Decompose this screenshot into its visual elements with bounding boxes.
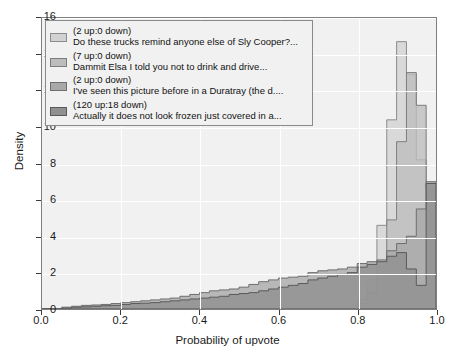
x-tick-label: 0.2 [100,315,140,326]
gridline-horizontal [42,274,436,275]
legend-swatch [50,58,67,67]
x-tick-label: 1.0 [417,315,455,326]
legend-item-1[interactable]: (7 up:0 down)Dammit Elsa I told you not … [50,50,307,73]
legend-vote-count: (2 up:0 down) [73,25,298,36]
legend: (2 up:0 down)Do these trucks remind anyo… [45,20,313,126]
legend-item-3[interactable]: (120 up:18 down)Actually it does not loo… [50,99,307,122]
legend-item-0[interactable]: (2 up:0 down)Do these trucks remind anyo… [50,25,307,48]
x-axis-label: Probability of upvote [0,334,455,346]
x-tick-label: 0.8 [338,315,378,326]
x-tick-label: 0.4 [179,315,219,326]
gridline-horizontal [42,128,436,129]
gridline-horizontal [42,18,436,19]
gridline-horizontal [42,238,436,239]
y-tick-label: 8 [22,158,56,169]
legend-series-label: Do these trucks remind anyone else of Sl… [73,36,298,48]
legend-swatch [50,33,67,42]
y-axis-label: Density [13,91,25,211]
y-tick-label: 2 [22,267,56,278]
x-tick-label: 0.6 [259,315,299,326]
legend-item-2[interactable]: (2 up:0 down)I've seen this picture befo… [50,74,307,97]
legend-vote-count: (120 up:18 down) [73,99,282,110]
legend-series-label: Actually it does not look frozen just co… [73,110,282,122]
x-tick-label: 0.0 [21,315,61,326]
density-histogram-figure: 02468101214160.00.20.40.60.81.0 (2 up:0 … [0,0,455,354]
legend-series-label: Dammit Elsa I told you not to drink and … [73,61,267,73]
gridline-horizontal [42,165,436,166]
legend-swatch [50,82,67,91]
gridline-horizontal [42,201,436,202]
legend-swatch [50,107,67,116]
legend-series-label: I've seen this picture before in a Durat… [73,85,283,97]
y-tick-label: 4 [22,231,56,242]
gridline-vertical [359,18,360,309]
legend-vote-count: (7 up:0 down) [73,50,267,61]
legend-vote-count: (2 up:0 down) [73,74,283,85]
y-tick-label: 6 [22,194,56,205]
